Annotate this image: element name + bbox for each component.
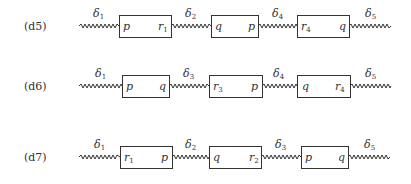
box-right-label: p xyxy=(251,80,258,93)
row-label: (d6) xyxy=(24,80,47,93)
spring-label-1: δ1 xyxy=(93,7,104,21)
spring-label-3: δ4 xyxy=(272,7,284,21)
row-d7: (d7) δ1 δ2 δ3 δ5 r1 p q r2 p q xyxy=(24,138,390,169)
spring-label-2: δ2 xyxy=(185,138,196,152)
row-d6: (d6) δ1 δ3 δ4 δ5 p q r3 p q r4 xyxy=(24,67,391,98)
spring-icon xyxy=(169,84,209,88)
row-d5: (d5) δ1 δ2 δ4 δ5 p r1 q p r4 q xyxy=(24,7,391,38)
spring-label-2: δ2 xyxy=(185,7,196,21)
box-right-label: q xyxy=(338,151,345,164)
box-left-label: q xyxy=(213,151,220,164)
row-label: (d5) xyxy=(24,20,47,33)
spring-box-diagram: (d5) δ1 δ2 δ4 δ5 p r1 q p r4 q (d6) δ1 δ… xyxy=(0,0,411,184)
box-right-label: p xyxy=(161,151,168,164)
spring-icon xyxy=(79,84,122,88)
spring-icon xyxy=(348,155,390,159)
spring-icon xyxy=(79,155,120,159)
box-left-label: q xyxy=(302,80,309,93)
box-right-label: p xyxy=(248,20,255,33)
box-left-label: q xyxy=(215,20,222,33)
spring-icon xyxy=(79,24,119,28)
spring-label-4: δ5 xyxy=(365,7,376,21)
spring-icon xyxy=(261,155,301,159)
box-left-label: p xyxy=(123,20,130,33)
spring-label-2: δ3 xyxy=(183,67,194,81)
spring-icon xyxy=(349,24,391,28)
box-right-label: q xyxy=(159,80,166,93)
spring-label-4: δ5 xyxy=(365,67,376,81)
spring-label-3: δ3 xyxy=(275,138,286,152)
spring-icon xyxy=(171,24,211,28)
spring-icon xyxy=(258,24,297,28)
box-left-label: p xyxy=(305,151,312,164)
box-right-label: q xyxy=(339,20,346,33)
spring-label-3: δ4 xyxy=(273,67,285,81)
row-label: (d7) xyxy=(24,151,47,164)
spring-label-1: δ1 xyxy=(94,138,105,152)
box-left-label: p xyxy=(126,80,133,93)
spring-icon xyxy=(262,84,297,88)
spring-icon xyxy=(350,84,391,88)
spring-label-4: δ5 xyxy=(364,138,375,152)
spring-icon xyxy=(172,155,209,159)
spring-label-1: δ1 xyxy=(95,67,106,81)
